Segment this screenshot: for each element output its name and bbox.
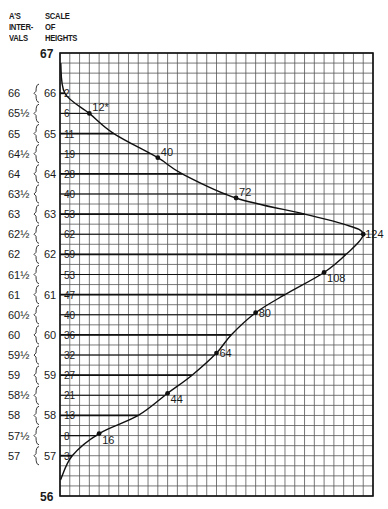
interval-label: 61½ xyxy=(8,269,29,281)
data-point-marker xyxy=(87,111,92,116)
interval-label: 58½ xyxy=(8,389,29,401)
interval-label: 63½ xyxy=(8,188,29,200)
brace-icon xyxy=(34,205,39,223)
data-point-label: 44 xyxy=(171,393,183,405)
data-point-marker xyxy=(97,431,102,436)
interval-count-label: 19 xyxy=(64,149,76,160)
brace-icon xyxy=(34,366,39,384)
brace-icon xyxy=(34,104,39,122)
brace-icon xyxy=(34,84,39,102)
data-point-marker xyxy=(165,391,170,396)
brace-icon xyxy=(34,165,39,183)
data-point-marker xyxy=(322,270,327,275)
interval-label: 57½ xyxy=(8,430,29,442)
interval-label: 59 xyxy=(8,369,20,381)
scale-tick-label: 58 xyxy=(44,409,56,421)
scale-tick-label: 59 xyxy=(44,369,56,381)
scale-tick-label: 66 xyxy=(44,87,56,99)
interval-label: 64½ xyxy=(8,148,29,160)
ogive-chart: 261119284053625953474036322721138312*407… xyxy=(0,0,388,509)
interval-count-label: 6 xyxy=(64,108,70,119)
interval-count-label: 40 xyxy=(64,189,76,200)
data-point-label: 12* xyxy=(92,101,109,113)
brace-icon xyxy=(34,245,39,263)
brace-icon xyxy=(34,124,39,142)
marked-points: 12*407212410880644416 xyxy=(87,101,384,445)
scale-tick-label: 64 xyxy=(44,168,56,180)
interval-label: 63 xyxy=(8,208,20,220)
interval-count-label: 47 xyxy=(64,290,76,301)
brace-icon xyxy=(34,185,39,203)
data-point-label: 40 xyxy=(161,146,173,158)
interval-count-label: 59 xyxy=(64,249,76,260)
interval-label: 64 xyxy=(8,168,20,180)
interval-label: 60 xyxy=(8,329,20,341)
brace-icon xyxy=(34,346,39,364)
brace-icon xyxy=(34,326,39,344)
brace-icon xyxy=(34,427,39,445)
brace-icon xyxy=(34,265,39,283)
data-point-label: 124 xyxy=(365,228,383,240)
data-point-label: 80 xyxy=(259,307,271,319)
scale-tick-label: 61 xyxy=(44,289,56,301)
interval-label: 59½ xyxy=(8,349,29,361)
brace-icon xyxy=(34,386,39,404)
brace-icon xyxy=(34,145,39,163)
height-scale: 675666656463626160595857 xyxy=(40,47,56,504)
intervals-column: 6665½6564½6463½6362½6261½6160½6059½5958½… xyxy=(8,84,39,465)
brace-icon xyxy=(34,406,39,424)
interval-count-label: 53 xyxy=(64,270,76,281)
scale-tick-label: 60 xyxy=(44,329,56,341)
interval-count-label: 11 xyxy=(64,129,75,140)
interval-count-label: 21 xyxy=(64,390,76,401)
brace-icon xyxy=(34,286,39,304)
scale-tick-label: 65 xyxy=(44,128,56,140)
interval-label: 62 xyxy=(8,248,20,260)
interval-count-label: 8 xyxy=(64,431,70,442)
interval-count-label: 28 xyxy=(64,169,76,180)
interval-label: 57 xyxy=(8,450,20,462)
ogive-curve xyxy=(60,63,363,480)
interval-count-label: 62 xyxy=(64,229,76,240)
scale-top-label: 67 xyxy=(40,47,54,61)
interval-label: 66 xyxy=(8,87,20,99)
scale-tick-label: 62 xyxy=(44,248,56,260)
interval-label: 62½ xyxy=(8,228,29,240)
data-point-marker xyxy=(214,351,219,356)
interval-count-label: 53 xyxy=(64,209,76,220)
scale-tick-label: 57 xyxy=(44,450,56,462)
scale-bottom-label: 56 xyxy=(40,490,54,504)
brace-icon xyxy=(34,306,39,324)
brace-icon xyxy=(34,225,39,243)
scale-tick-label: 63 xyxy=(44,208,56,220)
interval-count-label: 40 xyxy=(64,310,76,321)
interval-label: 61 xyxy=(8,289,20,301)
interval-count-label: 27 xyxy=(64,370,76,381)
interval-label: 58 xyxy=(8,409,20,421)
data-point-label: 16 xyxy=(102,434,114,446)
brace-icon xyxy=(34,447,39,465)
data-point-marker xyxy=(155,155,160,160)
interval-label: 65½ xyxy=(8,107,29,119)
interval-label: 65 xyxy=(8,128,20,140)
data-point-label: 108 xyxy=(327,272,345,284)
data-point-marker xyxy=(234,196,239,201)
interval-count-label: 32 xyxy=(64,350,76,361)
interval-count-label: 36 xyxy=(64,330,76,341)
interval-count-label: 13 xyxy=(64,410,76,421)
interval-label: 60½ xyxy=(8,309,29,321)
data-point-marker xyxy=(253,310,258,315)
data-point-label: 64 xyxy=(220,347,232,359)
data-point-label: 72 xyxy=(239,186,251,198)
